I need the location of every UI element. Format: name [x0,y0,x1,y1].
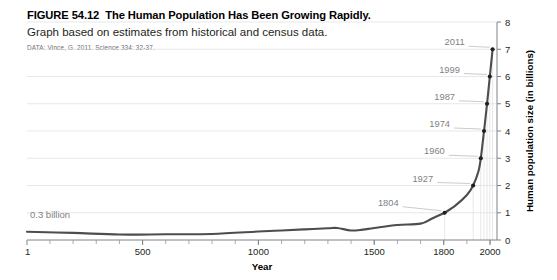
milestone-dot [471,183,475,187]
milestone-leader-line [449,155,478,156]
population-curve [27,49,493,234]
x-axis-title: Year [252,261,273,272]
x-axis-tick-labels: 15001000150018002000 [25,246,501,257]
milestone-leader-line [464,74,487,75]
milestone-leader-line [459,101,484,102]
population-growth-line-chart: 15001000150018002000 012345678 180419271… [0,0,557,280]
milestone-label: 1974 [429,119,450,129]
y-tick-label: 4 [505,126,510,137]
y-tick-label: 5 [505,98,510,109]
milestone-label: 1804 [378,198,399,208]
x-tick-label: 1800 [433,246,454,257]
y-tick-label: 3 [505,153,510,164]
x-tick-label: 2000 [479,246,500,257]
x-tick-label: 1500 [364,246,385,257]
milestone-dot [490,47,494,51]
milestone-dot [482,129,486,133]
y-axis-ticks [497,22,501,240]
x-tick-label: 1000 [248,246,269,257]
milestone-leader-line [454,128,481,129]
milestone-label: 1960 [424,146,445,156]
x-axis-ticks [27,240,490,245]
milestone-labels: 1804192719601974198719992011 [378,37,465,208]
y-axis-tick-labels: 012345678 [505,17,510,246]
milestone-dot [443,211,447,215]
y-tick-label: 8 [505,17,510,28]
milestone-dot [485,102,489,106]
x-tick-label: 500 [135,246,151,257]
chart-plot-area: 15001000150018002000 012345678 180419271… [0,0,557,280]
milestone-dot [479,156,483,160]
callout-labels: 0.3 billion [30,209,70,220]
y-axis-title: Human population size (in billions) [524,50,535,212]
y-tick-label: 1 [505,207,510,218]
y-tick-label: 6 [505,71,510,82]
horizontal-gridlines [27,22,496,213]
milestone-label: 1927 [412,174,433,184]
milestone-label: 1999 [439,65,460,75]
start-value-callout: 0.3 billion [30,209,70,220]
y-tick-label: 2 [505,180,510,191]
milestone-leader-line [469,46,490,47]
milestone-dot [488,74,492,78]
x-tick-label: 1 [25,246,30,257]
milestone-leader-line [403,207,442,211]
vertical-gridlines [445,49,493,240]
milestone-label: 2011 [445,37,465,47]
figure-container: FIGURE 54.12 The Human Population Has Be… [0,0,557,280]
y-tick-label: 0 [505,235,510,246]
milestone-label: 1987 [434,92,455,102]
y-tick-label: 7 [505,44,510,55]
milestone-leader-line [437,183,470,184]
